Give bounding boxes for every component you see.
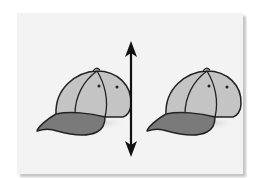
figure-panel [17, 13, 243, 174]
cap-left-icon [37, 68, 131, 135]
cap-right-icon [147, 68, 241, 135]
figure-stage [0, 0, 263, 178]
